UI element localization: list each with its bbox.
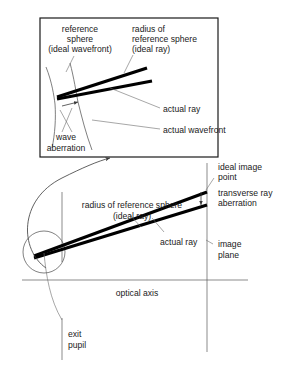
inset-reference-sphere-line1: reference <box>62 24 99 34</box>
main-actual-ray-label: actual ray <box>160 237 198 247</box>
exit-pupil-label-line2: pupil <box>68 340 86 350</box>
image-plane-label-line1: image <box>218 239 242 249</box>
optical-axis-label: optical axis <box>116 288 159 298</box>
inset-reference-sphere-line2: sphere <box>67 34 93 44</box>
wave-aberration-leader-a <box>62 108 72 132</box>
wave-aberration-arrow <box>62 102 78 106</box>
inset-radius-line3: (ideal ray) <box>132 44 170 54</box>
inset-radius-line1: radius of <box>132 24 166 34</box>
inset-actual-ray-leader <box>110 88 160 108</box>
transverse-aberration-label-line1: transverse ray <box>218 188 273 198</box>
exit-pupil-label-line1: exit <box>68 329 82 339</box>
transverse-aberration-label-line2: aberration <box>218 198 257 208</box>
inset-wave-aberration-line1: wave <box>55 132 76 142</box>
inset-ideal-ray-leader <box>124 55 133 73</box>
image-plane-label-line2: plane <box>218 250 239 260</box>
ideal-image-point-label-line1: ideal image <box>218 162 262 172</box>
magnification-arrow <box>27 158 110 268</box>
inset-reference-sphere-line3: (ideal wavefront) <box>48 44 112 54</box>
inset-actual-wavefront-label: actual wavefront <box>163 125 226 135</box>
wave-aberration-figure: radius of reference sphere (ideal ray) a… <box>0 0 295 367</box>
main-radius-label-line1: radius of reference sphere <box>82 200 183 210</box>
inset-radius-line2: reference sphere <box>132 34 197 44</box>
reference-sphere-curve <box>46 67 55 148</box>
wave-aberration-leader-b <box>60 110 72 132</box>
main-radius-label-line2: (ideal ray) <box>113 211 151 221</box>
inset-actual-ray-label: actual ray <box>163 104 201 114</box>
ideal-ray-inset <box>57 68 147 97</box>
inset-wave-aberration-line2: aberration <box>47 143 86 153</box>
pupil-wavefront-leader <box>44 253 62 320</box>
inset-actual-wavefront-leader <box>92 120 160 129</box>
ideal-image-point-label-line2: point <box>218 172 237 182</box>
actual-ray-inset <box>57 81 152 99</box>
reference-sphere-leader <box>66 56 74 72</box>
